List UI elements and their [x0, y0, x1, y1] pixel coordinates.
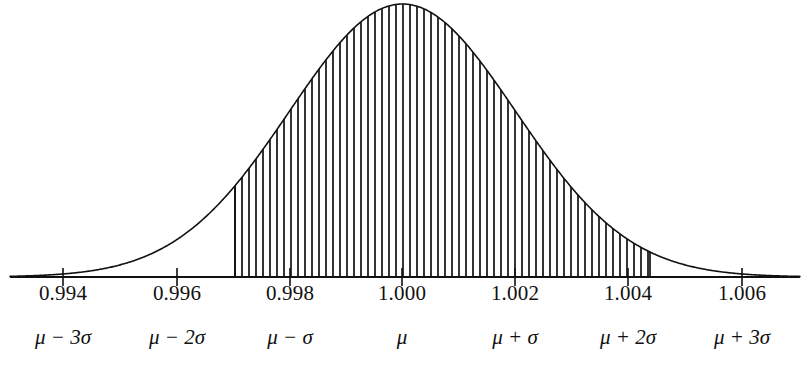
sigma-label-plus-3-sigma: μ + 3σ: [714, 327, 770, 348]
tick-label-6: 1.006: [718, 283, 766, 304]
sigma-label-minus-2-sigma: μ − 2σ: [149, 327, 205, 348]
tick-label-1: 0.996: [153, 283, 201, 304]
sigma-label-minus-3-sigma: μ − 3σ: [35, 327, 91, 348]
normal-distribution-figure: 0.994 0.996 0.998 1.000 1.002 1.004 1.00…: [0, 0, 809, 366]
distribution-plot: [0, 0, 809, 366]
tick-label-2: 0.998: [266, 283, 314, 304]
tick-label-0: 0.994: [39, 283, 87, 304]
tick-label-3: 1.000: [378, 283, 426, 304]
sigma-label-mu: μ: [397, 327, 408, 348]
hatched-region: [235, 0, 648, 277]
bell-curve-line: [10, 4, 800, 276]
tick-label-5: 1.004: [604, 283, 652, 304]
tick-label-4: 1.002: [491, 283, 539, 304]
sigma-label-minus-1-sigma: μ − σ: [267, 327, 313, 348]
sigma-label-plus-1-sigma: μ + σ: [492, 327, 538, 348]
sigma-label-plus-2-sigma: μ + 2σ: [600, 327, 656, 348]
